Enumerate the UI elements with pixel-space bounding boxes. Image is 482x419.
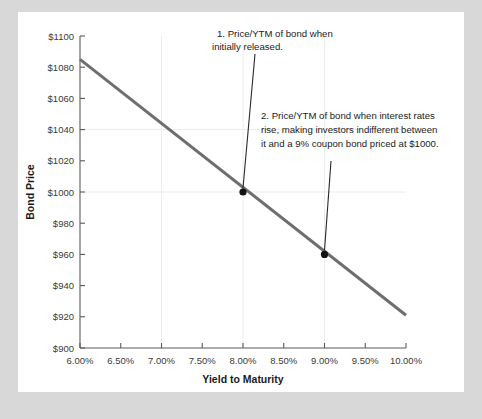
- data-points: [239, 188, 328, 258]
- leader-line-2: [325, 161, 332, 250]
- x-tick-label: 6.50%: [107, 355, 134, 366]
- annotation-1-line-1: 1. Price/YTM of bond when: [217, 28, 333, 39]
- annotation-2-line-2: rise, making investors indifferent betwe…: [261, 124, 437, 135]
- y-tick-label: $980: [53, 218, 74, 229]
- x-tick-label: 7.50%: [189, 355, 216, 366]
- x-tick-label: 8.00%: [230, 355, 257, 366]
- y-tick-label: $900: [53, 343, 74, 354]
- y-axis: $900$920$940$960$980$1000$1020$1040$1060…: [48, 31, 85, 354]
- y-tick-label: $1000: [48, 187, 74, 198]
- annotation-2: 2. Price/YTM of bond when interest rates…: [261, 110, 439, 149]
- y-tick-label: $960: [53, 249, 74, 260]
- y-tick-label: $1040: [48, 124, 74, 135]
- annotation-2-line-1: 2. Price/YTM of bond when interest rates: [261, 110, 435, 121]
- y-tick-label: $1080: [48, 62, 74, 73]
- x-tick-label: 9.50%: [352, 355, 379, 366]
- figure-frame: $900$920$940$960$980$1000$1020$1040$1060…: [0, 0, 482, 419]
- y-axis-title: Bond Price: [24, 164, 36, 220]
- x-tick-label: 6.00%: [67, 355, 94, 366]
- x-tick-label: 10.00%: [390, 355, 423, 366]
- x-tick-label: 9.00%: [311, 355, 338, 366]
- y-tick-label: $1100: [48, 31, 74, 42]
- y-tick-label: $920: [53, 311, 74, 322]
- y-tick-label: $940: [53, 280, 74, 291]
- x-axis: 6.00%6.50%7.00%7.50%8.00%8.50%9.00%9.50%…: [67, 343, 423, 366]
- x-tick-label: 8.50%: [270, 355, 297, 366]
- annotation-1-line-2: initially released.: [212, 41, 283, 52]
- bond-price-yield-chart: $900$920$940$960$980$1000$1020$1040$1060…: [18, 12, 464, 392]
- data-point: [239, 188, 246, 195]
- leader-line-1: [243, 54, 255, 188]
- annotation-2-line-3: it and a 9% coupon bond priced at $1000.: [261, 138, 439, 149]
- x-axis-title: Yield to Maturity: [202, 373, 283, 385]
- annotation-1: 1. Price/YTM of bond when initially rele…: [212, 28, 333, 52]
- x-tick-label: 7.00%: [148, 355, 175, 366]
- data-point: [321, 251, 328, 258]
- y-tick-label: $1060: [48, 93, 74, 104]
- y-tick-label: $1020: [48, 155, 74, 166]
- figure-card: $900$920$940$960$980$1000$1020$1040$1060…: [18, 12, 464, 392]
